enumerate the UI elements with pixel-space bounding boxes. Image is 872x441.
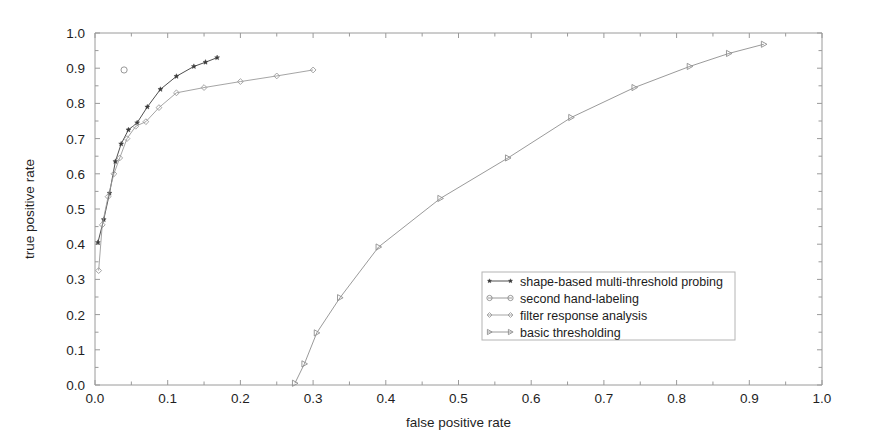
y-tick-label: 1.0 bbox=[66, 26, 85, 41]
x-tick-label: 0.8 bbox=[667, 391, 686, 406]
series-2 bbox=[96, 67, 316, 273]
series-line bbox=[99, 70, 313, 271]
y-tick-label: 0.1 bbox=[66, 343, 85, 358]
x-tick-label: 0.1 bbox=[158, 391, 177, 406]
y-tick-label: 0.7 bbox=[66, 132, 85, 147]
series-1 bbox=[121, 67, 127, 73]
x-axis-title: false positive rate bbox=[406, 415, 511, 430]
legend-label: shape-based multi-threshold probing bbox=[520, 275, 723, 289]
y-tick-label: 0.2 bbox=[66, 308, 85, 323]
x-tick-label: 1.0 bbox=[813, 391, 832, 406]
x-tick-label: 0.3 bbox=[304, 391, 323, 406]
x-tick-label: 0.5 bbox=[449, 391, 468, 406]
y-tick-label: 0.0 bbox=[66, 378, 85, 393]
series-0 bbox=[95, 55, 219, 245]
roc-figure: 0.00.10.20.30.40.50.60.70.80.91.0 0.00.1… bbox=[0, 0, 872, 441]
x-tick-label: 0.2 bbox=[231, 391, 250, 406]
x-tick-label: 0.0 bbox=[86, 391, 105, 406]
y-axis-title: true positive rate bbox=[22, 159, 37, 259]
legend-label: second hand-labeling bbox=[520, 292, 639, 306]
series-line bbox=[98, 58, 217, 243]
data-point-marker bbox=[121, 67, 127, 73]
y-tick-label: 0.6 bbox=[66, 167, 85, 182]
roc-chart: 0.00.10.20.30.40.50.60.70.80.91.0 0.00.1… bbox=[0, 0, 872, 441]
legend-label: basic thresholding bbox=[520, 326, 621, 340]
x-tick-label: 0.4 bbox=[376, 391, 395, 406]
data-point-marker bbox=[215, 55, 220, 60]
data-point-marker bbox=[119, 141, 124, 146]
data-point-marker bbox=[203, 60, 208, 65]
y-tick-label: 0.8 bbox=[66, 96, 85, 111]
data-point-marker bbox=[113, 159, 118, 164]
x-tick-label: 0.7 bbox=[595, 391, 614, 406]
y-tick-labels: 0.00.10.20.30.40.50.60.70.80.91.0 bbox=[66, 26, 85, 393]
legend-label: filter response analysis bbox=[520, 309, 647, 323]
y-tick-label: 0.9 bbox=[66, 61, 85, 76]
x-tick-labels: 0.00.10.20.30.40.50.60.70.80.91.0 bbox=[86, 391, 832, 406]
y-tick-label: 0.5 bbox=[66, 202, 85, 217]
legend-entry-0[interactable]: shape-based multi-threshold probing bbox=[487, 275, 723, 289]
y-tick-label: 0.4 bbox=[66, 237, 85, 252]
x-tick-label: 0.6 bbox=[522, 391, 541, 406]
y-tick-label: 0.3 bbox=[66, 272, 85, 287]
x-tick-label: 0.9 bbox=[740, 391, 759, 406]
legend: shape-based multi-threshold probingsecon… bbox=[482, 272, 735, 340]
